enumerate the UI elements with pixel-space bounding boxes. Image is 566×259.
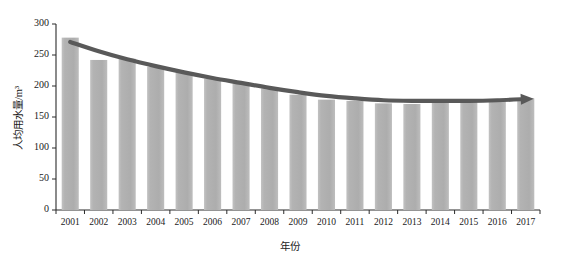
y-tick-label: 250 xyxy=(34,48,49,59)
y-axis-title: 人均用水量/m³ xyxy=(13,86,24,150)
bar-2008 xyxy=(261,88,278,210)
bar-2011 xyxy=(346,101,363,210)
x-tick-label: 2005 xyxy=(175,217,194,227)
bar-2010 xyxy=(318,100,335,210)
bar-2013 xyxy=(403,104,420,210)
y-tick-label: 200 xyxy=(34,79,49,90)
y-tick-label: 300 xyxy=(34,17,49,28)
bar-2003 xyxy=(119,59,136,210)
x-tick-label: 2015 xyxy=(459,217,478,227)
bar-2015 xyxy=(460,100,477,210)
x-tick-label: 2013 xyxy=(402,217,421,227)
bar-2009 xyxy=(289,95,306,210)
bar-2014 xyxy=(432,101,449,210)
chart-figure: 050100150200250300 200120022003200420052… xyxy=(0,0,566,259)
trend-line xyxy=(70,42,526,101)
x-tick-label: 2014 xyxy=(431,217,450,227)
x-tick-label: 2006 xyxy=(203,217,222,227)
x-tick-label: 2017 xyxy=(516,217,535,227)
bar-chart-canvas: 050100150200250300 200120022003200420052… xyxy=(0,0,566,259)
bar-2002 xyxy=(90,60,107,210)
bar-2016 xyxy=(489,100,506,210)
bar-2007 xyxy=(233,84,250,210)
bar-2001 xyxy=(62,38,79,210)
y-tick-label: 0 xyxy=(44,203,49,214)
y-axis: 050100150200250300 xyxy=(34,17,56,214)
x-tick-label: 2001 xyxy=(61,217,80,227)
x-tick-label: 2012 xyxy=(374,217,393,227)
x-tick-label: 2010 xyxy=(317,217,336,227)
x-tick-label: 2003 xyxy=(118,217,137,227)
x-tick-label: 2008 xyxy=(260,217,279,227)
y-tick-label: 150 xyxy=(34,110,49,121)
bar-2006 xyxy=(204,79,221,210)
x-tick-label: 2002 xyxy=(89,217,108,227)
x-axis-title: 年份 xyxy=(280,240,301,252)
x-tick-label: 2009 xyxy=(289,217,308,227)
bar-2017 xyxy=(517,98,534,210)
bar-2005 xyxy=(176,72,193,210)
bar-series xyxy=(62,38,535,210)
bar-2012 xyxy=(375,103,392,210)
x-tick-label: 2004 xyxy=(146,217,165,227)
x-tick-label: 2016 xyxy=(488,217,507,227)
y-tick-label: 50 xyxy=(39,172,49,183)
x-tick-label: 2007 xyxy=(232,217,251,227)
y-tick-label: 100 xyxy=(34,141,49,152)
x-axis: 2001200220032004200520062007200820092010… xyxy=(56,210,540,227)
x-tick-label: 2011 xyxy=(346,217,365,227)
bar-2004 xyxy=(147,67,164,210)
